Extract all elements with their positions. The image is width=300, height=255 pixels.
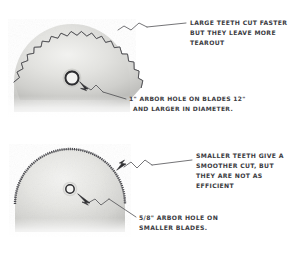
small-teeth-note-line-2: SMOOTHER CUT, BUT xyxy=(196,162,274,169)
large-teeth-note-line-1: LARGE TEETH CUT FASTER xyxy=(190,19,287,26)
large-arbor-note-line-1: 1" ARBOR HOLE ON BLADES 12" xyxy=(129,95,246,102)
fine-tooth-blade xyxy=(0,149,160,241)
large-teeth-note-line-2: BUT THEY LEAVE MORE xyxy=(190,29,276,36)
diagram-canvas: LARGE TEETH CUT FASTER BUT THEY LEAVE MO… xyxy=(0,0,300,255)
large-teeth-note: LARGE TEETH CUT FASTER BUT THEY LEAVE MO… xyxy=(190,19,287,46)
large-arbor-hole xyxy=(63,69,80,86)
small-arbor-note-line-1: 5/8" ARBOR HOLE ON xyxy=(139,214,218,221)
large-arbor-note-line-2: AND LARGER IN DIAMETER. xyxy=(133,105,233,112)
saw-blade-diagram: LARGE TEETH CUT FASTER BUT THEY LEAVE MO… xyxy=(0,0,300,255)
small-teeth-note-line-1: SMALLER TEETH GIVE A xyxy=(196,152,284,159)
small-arbor-hole xyxy=(63,182,76,195)
coarse-tooth-blade xyxy=(0,24,160,118)
small-arbor-note-line-2: SMALLER BLADES. xyxy=(139,224,207,231)
fine-blade-fade xyxy=(0,186,160,241)
small-teeth-note-line-4: EFFICIENT xyxy=(196,182,235,189)
large-teeth-leader xyxy=(118,23,186,30)
small-teeth-note: SMALLER TEETH GIVE A SMOOTHER CUT, BUT T… xyxy=(196,152,284,189)
small-teeth-note-line-3: THEY ARE NOT AS xyxy=(196,172,263,179)
large-teeth-note-line-3: TEAROUT xyxy=(190,39,225,46)
small-teeth-leader xyxy=(117,160,192,170)
